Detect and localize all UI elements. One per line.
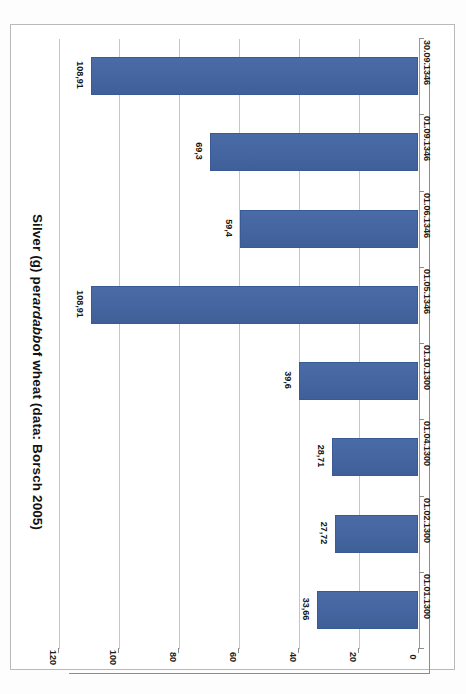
value-axis-line — [69, 673, 430, 674]
bar-value-label-01.06.1346: 59,4 — [224, 211, 234, 245]
bar-value-label-01.05.1346: 108,91 — [75, 287, 85, 321]
chart-title: Silver (g) per ardabb of wheat (data: Bo… — [25, 49, 51, 694]
gridline-60 — [239, 39, 240, 649]
gridline-100 — [119, 39, 120, 649]
bar-value-label-01.01.1300: 33,66 — [301, 592, 311, 626]
bar-value-label-01.02.1300: 27,72 — [319, 516, 329, 550]
bar-30.09.1346[interactable] — [91, 57, 418, 95]
category-tick-6 — [419, 496, 424, 497]
chart-frame: Silver (g) per ardabb of wheat (data: Bo… — [10, 24, 455, 670]
value-tick-label-60: 60 — [228, 650, 238, 664]
bar-value-label-30.09.1346: 108,91 — [75, 58, 85, 92]
category-label-01.04.1300: 01.04.1300 — [422, 421, 432, 497]
category-label-30.09.1346: 30.09.1346 — [422, 40, 432, 116]
value-tick-label-80: 80 — [168, 650, 178, 664]
bar-01.09.1346[interactable] — [210, 133, 418, 171]
category-tick-4 — [419, 343, 424, 344]
category-label-01.10.1300: 01.10.1300 — [422, 345, 432, 421]
value-tick-80 — [178, 648, 179, 653]
bar-value-label-01.09.1346: 69,3 — [194, 134, 204, 168]
category-label-01.09.1346: 01.09.1346 — [422, 116, 432, 192]
bar-value-label-01.04.1300: 28,71 — [316, 439, 326, 473]
gridline-20 — [359, 39, 360, 649]
category-tick-3 — [419, 267, 424, 268]
value-tick-label-0: 0 — [408, 650, 418, 664]
value-tick-label-100: 100 — [108, 650, 118, 664]
category-tick-end — [419, 648, 424, 649]
bar-01.02.1300[interactable] — [335, 515, 418, 553]
chart-title-part-2: of wheat (data: Borsch 2005) — [31, 343, 46, 530]
category-tick-0 — [419, 38, 424, 39]
bar-01.10.1300[interactable] — [299, 362, 418, 400]
value-tick-40 — [298, 648, 299, 653]
category-label-01.02.1300: 01.02.1300 — [422, 498, 432, 574]
bar-01.04.1300[interactable] — [332, 438, 418, 476]
chart-title-italic-term: ardabb — [31, 298, 46, 344]
bar-01.06.1346[interactable] — [240, 210, 418, 248]
category-tick-7 — [419, 572, 424, 573]
chart-title-part-1: Silver (g) per — [31, 214, 46, 298]
value-tick-label-40: 40 — [288, 650, 298, 664]
gridline-80 — [179, 39, 180, 649]
bar-01.05.1346[interactable] — [91, 286, 418, 324]
value-tick-120 — [58, 648, 59, 653]
gridline-0 — [419, 39, 420, 649]
value-tick-20 — [358, 648, 359, 653]
category-label-01.06.1346: 01.06.1346 — [422, 193, 432, 269]
value-tick-60 — [238, 648, 239, 653]
category-tick-2 — [419, 191, 424, 192]
bar-value-label-01.10.1300: 39,6 — [283, 363, 293, 397]
value-tick-label-120: 120 — [48, 650, 58, 664]
bar-01.01.1300[interactable] — [317, 591, 418, 629]
value-tick-label-20: 20 — [348, 650, 358, 664]
category-label-01.01.1300: 01.01.1300 — [422, 574, 432, 650]
gridline-120 — [59, 39, 60, 649]
category-label-01.05.1346: 01.05.1346 — [422, 269, 432, 345]
value-tick-100 — [118, 648, 119, 653]
gridline-40 — [299, 39, 300, 649]
